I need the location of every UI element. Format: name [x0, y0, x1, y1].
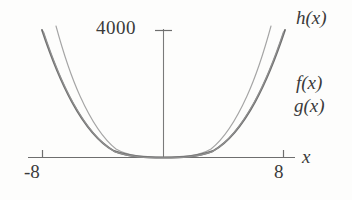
- x-tick-label-pos8: 8: [274, 162, 284, 181]
- curve-label-g: g(x): [294, 96, 325, 115]
- x-tick-label-neg8: -8: [24, 162, 40, 181]
- curve-label-h: h(x): [296, 8, 327, 27]
- curve-label-f: f(x): [296, 73, 322, 92]
- function-graph-figure: 4000 -8 8 x h(x) f(x) g(x): [0, 0, 352, 200]
- x-axis-label: x: [302, 147, 310, 166]
- y-tick-label-4000: 4000: [96, 18, 136, 37]
